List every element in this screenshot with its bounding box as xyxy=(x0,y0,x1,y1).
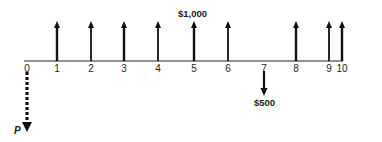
period-label: 5 xyxy=(191,63,197,74)
period-label: 1 xyxy=(54,63,60,74)
cash-flow-diagram: 012345678910 $1,000 $500 P xyxy=(0,0,382,142)
period-label: 2 xyxy=(88,63,94,74)
outflow-amount-label: $500 xyxy=(254,97,275,108)
period-label: 10 xyxy=(336,63,348,74)
present-value-label: P xyxy=(14,125,21,136)
period-label: 9 xyxy=(326,63,332,74)
present-value-arrow xyxy=(22,72,32,132)
inflow-arrows xyxy=(54,21,345,61)
period-label: 3 xyxy=(121,63,127,74)
period-label: 4 xyxy=(155,63,161,74)
outflow-arrow xyxy=(261,71,268,96)
inflow-amount-label: $1,000 xyxy=(178,8,207,19)
period-label: 8 xyxy=(293,63,299,74)
period-label: 6 xyxy=(225,63,231,74)
period-labels: 012345678910 xyxy=(24,63,348,74)
